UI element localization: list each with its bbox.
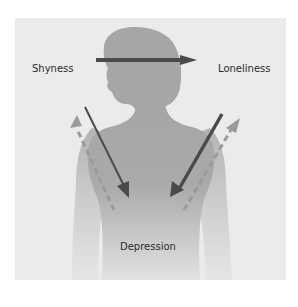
diagram-canvas [0,0,298,307]
loneliness-label: Loneliness [218,63,270,74]
torso-shape [88,108,215,280]
head-shape [104,27,182,114]
depression-label: Depression [120,241,176,252]
shyness-label: Shyness [32,63,74,74]
